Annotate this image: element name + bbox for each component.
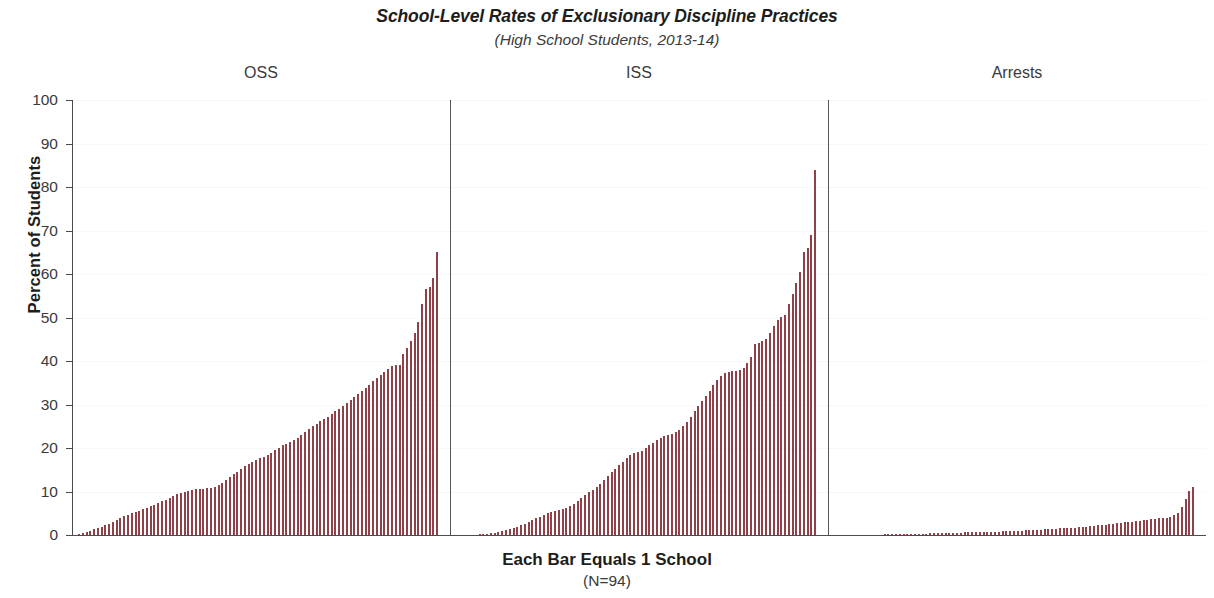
bar (1127, 522, 1129, 535)
bar (187, 491, 189, 535)
bar (516, 527, 518, 535)
bar (376, 378, 378, 535)
bar (565, 508, 567, 535)
bar (1032, 530, 1034, 535)
bar (334, 411, 336, 535)
panel-header-in-school-suspension: ISS (450, 64, 828, 82)
bar (910, 534, 912, 535)
bar (1036, 530, 1038, 535)
bar (1013, 531, 1015, 535)
bar (191, 490, 193, 535)
bar (86, 532, 88, 535)
bar (1192, 487, 1194, 535)
bar (365, 388, 367, 535)
bar (1112, 524, 1114, 535)
bar (486, 534, 488, 535)
bar (948, 533, 950, 535)
bar (494, 533, 496, 535)
bar (618, 465, 620, 535)
bar (558, 510, 560, 535)
bar (97, 528, 99, 535)
bar (108, 524, 110, 535)
bar (750, 357, 752, 535)
bar (1169, 517, 1171, 535)
bar (104, 525, 106, 535)
bar (656, 440, 658, 535)
bar (547, 513, 549, 535)
bar (509, 529, 511, 535)
bar (323, 419, 325, 535)
bar (990, 532, 992, 535)
bar (648, 445, 650, 535)
bar (1055, 529, 1057, 535)
bar (263, 457, 265, 535)
bar (694, 411, 696, 535)
bar (569, 506, 571, 535)
bar (622, 462, 624, 535)
bar (728, 372, 730, 535)
bar (417, 322, 419, 535)
bar (528, 522, 530, 535)
bar (637, 452, 639, 535)
bar (1166, 518, 1168, 535)
y-axis-tick-label: 0 (2, 526, 58, 544)
bar (255, 460, 257, 535)
bar-series-school-based-arrests (828, 100, 1206, 535)
bar (1116, 523, 1118, 535)
y-axis-tick-label: 20 (2, 439, 58, 457)
bar (735, 371, 737, 535)
bar (513, 528, 515, 535)
bar (754, 344, 756, 535)
bar (652, 443, 654, 535)
bar (998, 532, 1000, 535)
bar (93, 529, 95, 535)
bar (543, 515, 545, 535)
bar (945, 533, 947, 535)
bar (686, 422, 688, 535)
bar (1181, 507, 1183, 535)
bar (952, 533, 954, 535)
bar (316, 424, 318, 535)
bar (956, 533, 958, 535)
y-axis-tick-label: 70 (2, 222, 58, 240)
bar (773, 326, 775, 535)
bar (607, 476, 609, 535)
bar (1044, 529, 1046, 535)
bar (663, 436, 665, 535)
bar (795, 283, 797, 535)
gridline (72, 535, 1206, 536)
bar (758, 343, 760, 535)
bar (282, 445, 284, 535)
bar (884, 534, 886, 535)
bar (116, 520, 118, 535)
bar (202, 489, 204, 535)
bar (414, 333, 416, 535)
bar (1051, 529, 1053, 535)
bar (142, 509, 144, 535)
bar (259, 458, 261, 535)
bar (138, 511, 140, 535)
bar (626, 458, 628, 535)
bar (712, 385, 714, 535)
bar (361, 391, 363, 535)
bar (584, 495, 586, 535)
panel-out-of-school-suspension (72, 100, 450, 535)
bar (1158, 518, 1160, 535)
panel-header-out-of-school-suspension: OSS (72, 64, 450, 82)
bar (383, 372, 385, 535)
bar (127, 515, 129, 535)
bar (611, 472, 613, 535)
bar (562, 509, 564, 535)
bar (784, 315, 786, 535)
bar (436, 252, 438, 535)
bar (432, 278, 434, 535)
bar (986, 532, 988, 535)
bar (1139, 521, 1141, 535)
bar (1017, 531, 1019, 535)
bar (1173, 515, 1175, 535)
bar (554, 511, 556, 535)
y-axis-tick-label: 90 (2, 135, 58, 153)
bar (739, 370, 741, 535)
bar (979, 532, 981, 535)
bar (490, 533, 492, 535)
